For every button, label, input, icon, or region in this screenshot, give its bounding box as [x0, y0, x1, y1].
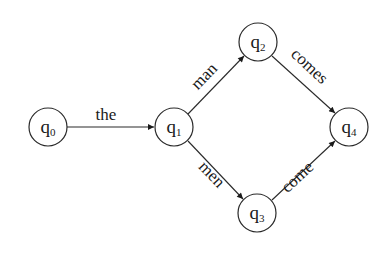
state-q2: q2: [239, 23, 277, 61]
edge-q3-q4: come: [272, 141, 335, 200]
edge-q1-q3: men: [188, 141, 243, 199]
edge-q1-q2: man: [187, 56, 244, 114]
state-q4: q4: [330, 108, 368, 146]
edge-q2-q4: comes: [272, 44, 335, 113]
edge-label-the: the: [96, 105, 117, 124]
state-q0: q0: [29, 108, 67, 146]
state-diagram: the man men comes come q0 q1 q2: [0, 0, 387, 253]
edge-label-man: man: [187, 59, 221, 94]
state-q3: q3: [238, 194, 276, 232]
edge-q0-q1: the: [67, 105, 154, 127]
edge-label-men: men: [195, 157, 229, 192]
state-q1: q1: [155, 108, 193, 146]
edge-label-comes: comes: [287, 44, 332, 88]
